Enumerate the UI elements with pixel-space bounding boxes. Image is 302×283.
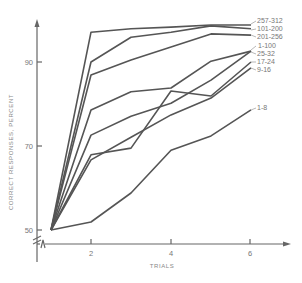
series-lines <box>51 25 251 230</box>
series-label-25-32: 25-32 <box>257 50 275 57</box>
series-line-9-16 <box>51 68 251 230</box>
leader-1-100 <box>251 46 256 50</box>
leader-1-8 <box>251 108 256 110</box>
leader-101-200 <box>251 29 256 30</box>
x-tick-label-6: 6 <box>248 249 252 258</box>
learning-curve-chart: 90 70 50 CORRECT RESPONSES, PERCENT 2 4 … <box>0 0 302 283</box>
series-label-101-200: 101-200 <box>257 25 283 32</box>
series-labels: 257-312 101-200 201-256 1-100 25-32 17-2… <box>251 17 283 111</box>
x-break-mark <box>41 240 45 248</box>
series-label-257-312: 257-312 <box>257 17 283 24</box>
series-label-1-8: 1-8 <box>257 104 267 111</box>
leader-257-312 <box>251 21 256 24</box>
leader-25-32 <box>251 52 256 54</box>
series-line-257-312 <box>51 25 251 230</box>
series-label-201-256: 201-256 <box>257 33 283 40</box>
series-label-1-100: 1-100 <box>258 42 276 49</box>
series-label-9-16: 9-16 <box>257 66 271 73</box>
y-axis: 90 70 50 CORRECT RESPONSES, PERCENT <box>8 19 42 262</box>
series-line-17-24 <box>51 62 251 230</box>
series-line-101-200 <box>51 26 251 230</box>
y-tick-label-70: 70 <box>25 142 33 151</box>
y-axis-title: CORRECT RESPONSES, PERCENT <box>8 94 14 210</box>
x-tick-label-2: 2 <box>89 249 93 258</box>
series-line-201-256 <box>51 34 251 230</box>
series-line-1-8 <box>51 110 251 230</box>
x-axis-arrow-icon <box>283 242 291 247</box>
leader-9-16 <box>251 68 256 70</box>
x-axis: 2 4 6 TRIALS <box>37 239 291 269</box>
y-tick-label-50: 50 <box>25 226 33 235</box>
x-tick-label-4: 4 <box>169 249 173 258</box>
axis-break-icon <box>33 236 45 248</box>
x-axis-title: TRIALS <box>150 263 175 269</box>
y-axis-arrow-icon <box>35 19 40 27</box>
y-tick-label-90: 90 <box>25 58 33 67</box>
leader-201-256 <box>251 35 256 37</box>
series-label-17-24: 17-24 <box>257 58 275 65</box>
